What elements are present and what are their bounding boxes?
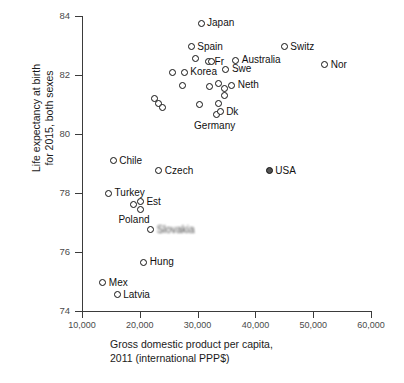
data-point-label-usa: USA [275, 165, 296, 176]
data-point-neth[interactable] [228, 82, 235, 89]
y-axis-title-line2: for 2015, both sexes [43, 23, 56, 213]
data-point-label-hung: Hung [150, 256, 174, 267]
data-point-label-japan: Japan [207, 17, 234, 28]
x-tick-mark [371, 311, 372, 318]
y-tick-mark [75, 252, 82, 253]
data-point-label-switz: Switz [290, 41, 314, 52]
data-point-label-poland: Poland [118, 214, 149, 225]
x-tick-mark [313, 311, 314, 318]
data-point-poland[interactable] [137, 206, 144, 213]
data-point-label-korea: Korea [190, 66, 217, 77]
x-tick-mark [82, 311, 83, 318]
data-point-label-swe: Swe [232, 63, 251, 74]
x-tick-label: 30,000 [172, 320, 224, 330]
data-point-japan[interactable] [198, 20, 205, 27]
x-tick-label: 10,000 [56, 320, 108, 330]
data-point-label-czech: Czech [165, 165, 193, 176]
x-axis-title: Gross domestic product per capita, 2011 … [110, 337, 360, 365]
x-tick-label: 50,000 [287, 320, 339, 330]
y-tick-label: 84 [44, 11, 70, 21]
y-tick-mark [75, 311, 82, 312]
data-point-turkey[interactable] [105, 190, 112, 197]
data-point-label-mex: Mex [109, 277, 128, 288]
x-tick-label: 20,000 [114, 320, 166, 330]
x-axis-title-line2: 2011 (international PPP$) [110, 351, 360, 365]
data-point-korea[interactable] [181, 69, 188, 76]
y-tick-label: 76 [44, 247, 70, 257]
data-point[interactable] [179, 82, 186, 89]
x-tick-mark [140, 311, 141, 318]
data-point-label-germany: Germany [194, 120, 235, 131]
data-point-label-chile: Chile [119, 155, 142, 166]
y-tick-label: 74 [44, 306, 70, 316]
data-point-latvia[interactable] [114, 291, 121, 298]
x-tick-label: 60,000 [345, 320, 397, 330]
data-point-label-latvia: Latvia [123, 289, 150, 300]
x-tick-mark [255, 311, 256, 318]
data-point[interactable] [169, 69, 176, 76]
x-tick-mark [198, 311, 199, 318]
data-point-label-est: Est [146, 196, 160, 207]
scatter-plot-figure: 848280787674 10,00020,00030,00040,00050,… [0, 0, 404, 383]
data-point[interactable] [221, 85, 228, 92]
data-point-label-slovakia: Slovakia [157, 224, 195, 235]
x-axis-title-line1: Gross domestic product per capita, [110, 337, 360, 351]
data-point-label-dk: Dk [226, 106, 238, 117]
y-axis-title: Life expectancy at birth for 2015, both … [30, 23, 56, 213]
y-tick-mark [75, 16, 82, 17]
data-point-label-neth: Neth [238, 79, 259, 90]
y-tick-mark [75, 193, 82, 194]
data-point-chile[interactable] [110, 157, 117, 164]
data-point-label-nor: Nor [331, 59, 347, 70]
data-point[interactable] [159, 104, 166, 111]
x-axis-line [82, 311, 371, 312]
y-tick-mark [75, 134, 82, 135]
x-tick-label: 40,000 [229, 320, 281, 330]
y-tick-mark [75, 75, 82, 76]
data-point-dk[interactable] [217, 108, 224, 115]
data-point[interactable] [221, 92, 228, 99]
y-axis-title-line1: Life expectancy at birth [30, 23, 43, 213]
data-point[interactable] [215, 100, 222, 107]
data-point-label-spain: Spain [197, 41, 223, 52]
data-point-label-turkey: Turkey [115, 187, 145, 198]
